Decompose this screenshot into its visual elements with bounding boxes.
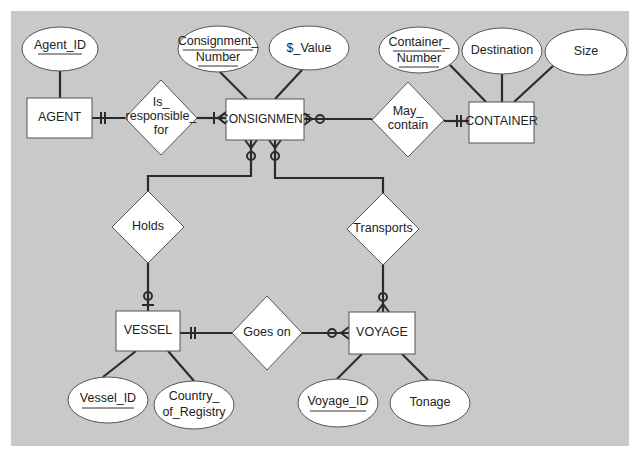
attribute-label: Destination [471,43,534,57]
relationship-label: contain [388,118,428,132]
attribute-label: Voyage_ID [307,394,368,408]
attribute-label: Agent_ID [34,38,86,52]
attribute-label: $_Value [287,41,332,55]
attribute-value[interactable]: $_Value [269,26,349,70]
relationship-label: responsible_ [126,109,198,123]
relationship-label: May_ [393,104,425,118]
attribute-agent-id[interactable]: Agent_ID [22,27,98,71]
attribute-label: Vessel_ID [80,391,136,405]
attribute-vessel-id[interactable]: Vessel_ID [68,377,148,423]
entity-label: VESSEL [124,323,173,337]
relationship-label: for [154,123,169,137]
entity-label: CONSIGNMENT [220,112,311,126]
attribute-container-number[interactable]: Container_ Number [379,27,459,73]
entity-label: CONTAINER [465,114,538,128]
entity-consignment[interactable]: CONSIGNMENT [220,99,311,140]
attribute-size[interactable]: Size [545,29,627,75]
attribute-country-of-registry[interactable]: Country_ of_Registry [154,381,234,429]
relationship-label: Transports [353,221,412,235]
relationship-label: Holds [132,219,164,233]
attribute-label: Number [397,51,441,65]
relationship-label: Is_ [153,95,171,109]
attribute-label: Country_ [169,389,221,403]
entity-vessel[interactable]: VESSEL [116,311,180,351]
attribute-consignment-number[interactable]: Consignment_ Number [178,26,260,72]
attribute-label: Container_ [388,35,450,49]
attribute-label: Number [196,50,240,64]
attribute-destination[interactable]: Destination [462,28,542,74]
attribute-label: Tonage [409,395,450,409]
attribute-label: Consignment_ [178,34,260,48]
entity-label: AGENT [38,110,81,124]
attribute-tonage[interactable]: Tonage [390,380,470,426]
relationship-label: Goes on [243,325,290,339]
entity-container[interactable]: CONTAINER [465,102,538,143]
entity-label: VOYAGE [356,325,408,339]
attribute-label: of_Registry [162,405,226,419]
attribute-label: Size [574,44,598,58]
entity-voyage[interactable]: VOYAGE [349,312,415,354]
entity-agent[interactable]: AGENT [27,98,92,138]
er-diagram: Agent_ID Consignment_ Number $_Value Con… [0,0,642,452]
attribute-voyage-id[interactable]: Voyage_ID [298,379,378,427]
